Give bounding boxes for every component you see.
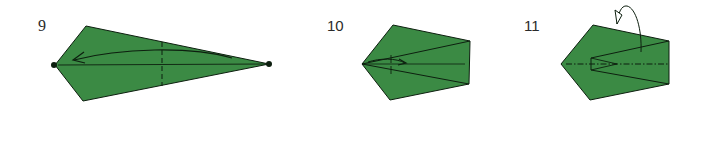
step-10-diagram (362, 25, 470, 100)
step-9-diagram (51, 26, 272, 101)
reference-dot-right-icon (266, 61, 272, 67)
pentagon-paper-shape (362, 25, 470, 100)
kite-paper-shape (55, 26, 269, 101)
step-11-diagram (561, 6, 669, 100)
origami-diagram-canvas (0, 0, 712, 154)
pentagon-paper-shape (561, 25, 669, 100)
reference-dot-left-icon (51, 62, 57, 68)
hollow-arrowhead-icon (615, 10, 622, 24)
